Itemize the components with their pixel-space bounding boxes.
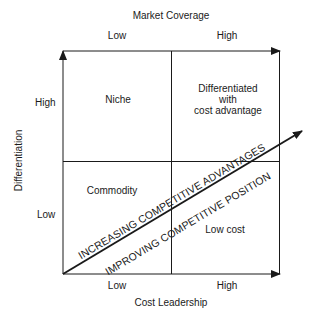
bottom-axis-high-label: High (217, 280, 238, 291)
quadrant-differentiated: Differentiated with cost advantage (194, 83, 262, 116)
quadrant-differentiated-line2: with (194, 94, 262, 105)
quadrant-differentiated-line1: Differentiated (194, 83, 262, 94)
bottom-axis-low-label: Low (108, 280, 126, 291)
quadrant-commodity: Commodity (87, 185, 138, 196)
quadrant-low-cost: Low cost (205, 224, 244, 235)
top-axis-high-label: High (217, 30, 238, 41)
quadrant-niche: Niche (105, 94, 131, 105)
top-axis-title: Market Coverage (133, 10, 210, 21)
matrix-lines (0, 0, 314, 322)
left-axis-high-label: High (35, 97, 56, 108)
quadrant-differentiated-line3: cost advantage (194, 105, 262, 116)
left-axis-low-label: Low (37, 209, 55, 220)
top-axis-low-label: Low (108, 30, 126, 41)
bottom-axis-title: Cost Leadership (135, 297, 208, 308)
diagonal-arrow (63, 131, 302, 274)
left-axis-title: Differentiation (13, 121, 24, 201)
